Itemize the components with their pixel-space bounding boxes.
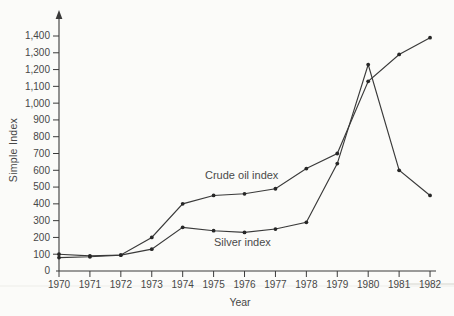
x-tick-label: 1979 [326, 279, 349, 290]
data-point-silver-index [88, 255, 92, 259]
x-tick-label: 1971 [79, 279, 102, 290]
y-tick-label: 900 [33, 114, 50, 125]
x-tick-label: 1977 [264, 279, 287, 290]
data-point-silver-index [243, 230, 247, 234]
y-tick-label: 400 [33, 198, 50, 209]
y-tick-label: 600 [33, 165, 50, 176]
data-point-crude-oil-index [397, 53, 401, 57]
data-point-crude-oil-index [150, 236, 154, 240]
data-point-silver-index [57, 256, 61, 260]
x-tick-label: 1980 [357, 279, 380, 290]
y-tick-label: 1,400 [25, 30, 50, 41]
data-point-crude-oil-index [212, 194, 216, 198]
x-tick-label: 1970 [48, 279, 71, 290]
x-tick-label: 1982 [419, 279, 442, 290]
data-point-crude-oil-index [57, 252, 61, 256]
data-point-silver-index [181, 225, 185, 229]
series-line-crude-oil-index [59, 38, 430, 256]
y-axis-arrowhead-icon [56, 10, 63, 19]
y-tick-label: 200 [33, 232, 50, 243]
data-point-silver-index [428, 194, 432, 198]
data-point-crude-oil-index [428, 36, 432, 40]
x-axis-title: Year [229, 296, 250, 308]
y-tick-label: 1,000 [25, 98, 50, 109]
data-point-silver-index [274, 227, 278, 231]
data-point-crude-oil-index [181, 202, 185, 206]
y-tick-label: 100 [33, 249, 50, 260]
x-tick-label: 1973 [141, 279, 164, 290]
data-point-crude-oil-index [304, 167, 308, 171]
data-point-silver-index [366, 63, 370, 67]
x-tick-label: 1978 [295, 279, 318, 290]
data-point-crude-oil-index [366, 79, 370, 83]
data-point-silver-index [119, 253, 123, 257]
x-tick-label: 1975 [202, 279, 225, 290]
data-point-crude-oil-index [335, 152, 339, 156]
data-point-crude-oil-index [274, 187, 278, 191]
chart-figure: 1002003004005006007008009001,0001,1001,2… [0, 0, 454, 316]
series-label-silver-index: Silver index [214, 236, 271, 248]
y-tick-label: 700 [33, 148, 50, 159]
series-label-crude-oil-index: Crude oil index [205, 169, 278, 181]
data-point-silver-index [397, 168, 401, 172]
x-tick-label: 1981 [388, 279, 411, 290]
x-tick-label: 1976 [233, 279, 256, 290]
series-line-silver-index [59, 65, 430, 258]
y-tick-label: 1,200 [25, 64, 50, 75]
data-point-silver-index [150, 247, 154, 251]
data-point-silver-index [212, 229, 216, 233]
x-tick-label: 1974 [172, 279, 195, 290]
data-point-silver-index [335, 162, 339, 166]
y-tick-label: 1,300 [25, 47, 50, 58]
data-point-silver-index [304, 220, 308, 224]
y-tick-label: 0 [44, 265, 50, 276]
y-tick-label: 300 [33, 215, 50, 226]
y-tick-label: 800 [33, 131, 50, 142]
y-tick-label: 500 [33, 181, 50, 192]
data-point-crude-oil-index [243, 192, 247, 196]
y-tick-label: 1,100 [25, 81, 50, 92]
line-chart: 1002003004005006007008009001,0001,1001,2… [0, 0, 454, 316]
y-axis-title: Simple Index [7, 118, 19, 182]
x-tick-label: 1972 [110, 279, 133, 290]
